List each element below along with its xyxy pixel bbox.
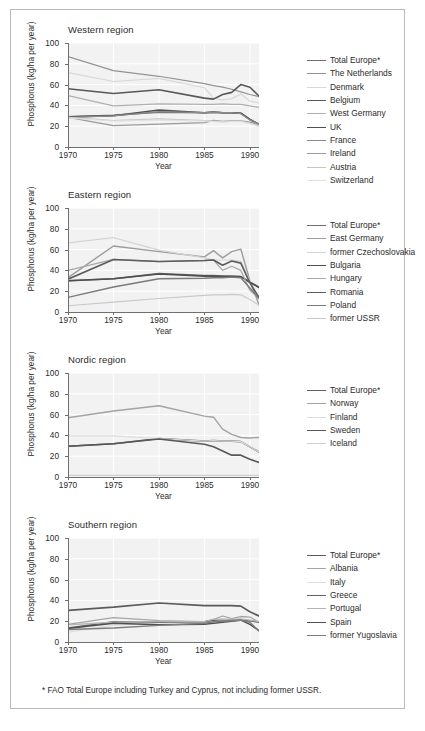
legend-item-eastern-1[interactable]: East Germany <box>307 232 406 245</box>
plot-wrap-western: Phosphorus (kg/ha per year)0204060801001… <box>11 37 406 162</box>
y-axis-label-western: Phosphorus (kg/ha per year) <box>26 18 36 130</box>
chart-panel-southern: Southern regionPhosphorus (kg/ha per yea… <box>11 519 406 684</box>
legend-item-western-2[interactable]: Denmark <box>307 81 406 94</box>
legend-item-western-6[interactable]: France <box>307 134 406 147</box>
legend-item-southern-1[interactable]: Albania <box>307 562 406 575</box>
y-tick-southern-40: 40 <box>33 596 59 604</box>
legend-southern: Total Europe*AlbaniaItalyGreecePortugalS… <box>307 549 406 642</box>
legend-item-nordic-1[interactable]: Norway <box>307 397 406 410</box>
x-tick-western-1970: 1970 <box>48 150 88 160</box>
legend-label: UK <box>330 123 342 132</box>
y-tick-southern-20: 20 <box>33 617 59 625</box>
x-tick-nordic-1990: 1990 <box>230 480 270 490</box>
legend-item-southern-0[interactable]: Total Europe* <box>307 549 406 562</box>
x-tick-western-1990: 1990 <box>230 150 270 160</box>
legend-item-western-8[interactable]: Austria <box>307 160 406 173</box>
legend-label: Austria <box>330 163 356 172</box>
y-tick-southern-80: 80 <box>33 555 59 563</box>
legend-western: Total Europe*The NetherlandsDenmarkBelgi… <box>307 54 406 187</box>
plot-wrap-southern: Phosphorus (kg/ha per year)0204060801001… <box>11 532 406 657</box>
legend-line-swatch-icon <box>307 292 326 293</box>
y-tick-western-80: 80 <box>33 60 59 68</box>
legend-label: Norway <box>330 399 358 408</box>
chart-panel-nordic: Nordic regionPhosphorus (kg/ha per year)… <box>11 354 406 519</box>
x-tick-southern-1975: 1975 <box>93 645 133 655</box>
legend-label: Spain <box>330 618 351 627</box>
legend-label: Hungary <box>330 274 362 283</box>
y-tick-eastern-80: 80 <box>33 225 59 233</box>
chart-title-western: Western region <box>68 24 134 35</box>
plot-wrap-nordic: Phosphorus (kg/ha per year)0204060801001… <box>11 367 406 492</box>
x-axis-southern <box>68 642 259 643</box>
legend-item-nordic-0[interactable]: Total Europe* <box>307 384 406 397</box>
legend-item-eastern-2[interactable]: former Czechoslovakia <box>307 246 406 259</box>
legend-item-western-4[interactable]: West Germany <box>307 107 406 120</box>
legend-line-swatch-icon <box>307 430 326 431</box>
legend-item-western-1[interactable]: The Netherlands <box>307 67 406 80</box>
legend-item-nordic-3[interactable]: Sweden <box>307 424 406 437</box>
legend-item-western-9[interactable]: Switzerland <box>307 174 406 187</box>
x-axis-western <box>68 147 259 148</box>
legend-item-eastern-4[interactable]: Hungary <box>307 272 406 285</box>
legend-item-southern-2[interactable]: Italy <box>307 576 406 589</box>
chart-panel-eastern: Eastern regionPhosphorus (kg/ha per year… <box>11 189 406 354</box>
legend-item-eastern-6[interactable]: Poland <box>307 299 406 312</box>
x-tick-eastern-1970: 1970 <box>48 315 88 325</box>
legend-line-swatch-icon <box>307 635 326 636</box>
legend-label: Iceland <box>330 439 357 448</box>
x-tick-southern-1980: 1980 <box>139 645 179 655</box>
legend-line-swatch-icon <box>307 622 326 623</box>
figure-footnote: * FAO Total Europe including Turkey and … <box>42 686 321 695</box>
y-tick-eastern-60: 60 <box>33 246 59 254</box>
legend-eastern: Total Europe*East Germanyformer Czechosl… <box>307 219 406 325</box>
legend-label: Total Europe* <box>330 386 380 395</box>
legend-line-swatch-icon <box>307 238 326 239</box>
x-tick-eastern-1990: 1990 <box>230 315 270 325</box>
y-tick-nordic-20: 20 <box>33 452 59 460</box>
x-tick-nordic-1980: 1980 <box>139 480 179 490</box>
legend-label: Belgium <box>330 96 360 105</box>
figure-frame: Western regionPhosphorus (kg/ha per year… <box>10 9 405 709</box>
y-axis-southern <box>68 538 259 642</box>
legend-line-swatch-icon <box>307 305 326 306</box>
y-axis-label-eastern: Phosphorus (kg/ha per year) <box>26 183 36 295</box>
x-tick-nordic-1985: 1985 <box>184 480 224 490</box>
legend-label: former Yugoslavia <box>330 631 397 640</box>
legend-line-swatch-icon <box>307 318 326 319</box>
legend-label: Romania <box>330 288 364 297</box>
legend-line-swatch-icon <box>307 140 326 141</box>
legend-line-swatch-icon <box>307 127 326 128</box>
legend-line-swatch-icon <box>307 443 326 444</box>
legend-item-western-0[interactable]: Total Europe* <box>307 54 406 67</box>
legend-label: Greece <box>330 591 357 600</box>
x-tick-western-1985: 1985 <box>184 150 224 160</box>
legend-item-southern-3[interactable]: Greece <box>307 589 406 602</box>
legend-label: The Netherlands <box>330 69 392 78</box>
legend-item-southern-5[interactable]: Spain <box>307 615 406 628</box>
legend-item-western-5[interactable]: UK <box>307 120 406 133</box>
x-axis-eastern <box>68 312 259 313</box>
legend-item-southern-4[interactable]: Portugal <box>307 602 406 615</box>
legend-item-nordic-4[interactable]: Iceland <box>307 437 406 450</box>
x-axis-label-southern: Year <box>68 656 259 666</box>
legend-line-swatch-icon <box>307 555 326 556</box>
x-axis-label-eastern: Year <box>68 326 259 336</box>
legend-line-swatch-icon <box>307 278 326 279</box>
x-tick-western-1980: 1980 <box>139 150 179 160</box>
legend-label: Finland <box>330 413 357 422</box>
legend-item-eastern-7[interactable]: former USSR <box>307 312 406 325</box>
legend-line-swatch-icon <box>307 265 326 266</box>
legend-line-swatch-icon <box>307 608 326 609</box>
legend-item-southern-6[interactable]: former Yugoslavia <box>307 629 406 642</box>
x-tick-southern-1985: 1985 <box>184 645 224 655</box>
legend-item-western-7[interactable]: Ireland <box>307 147 406 160</box>
legend-label: East Germany <box>330 234 384 243</box>
x-tick-western-1975: 1975 <box>93 150 133 160</box>
legend-item-nordic-2[interactable]: Finland <box>307 411 406 424</box>
legend-item-eastern-5[interactable]: Romania <box>307 285 406 298</box>
legend-label: Denmark <box>330 83 364 92</box>
legend-item-eastern-3[interactable]: Bulgaria <box>307 259 406 272</box>
legend-item-eastern-0[interactable]: Total Europe* <box>307 219 406 232</box>
legend-line-swatch-icon <box>307 390 326 391</box>
legend-item-western-3[interactable]: Belgium <box>307 94 406 107</box>
